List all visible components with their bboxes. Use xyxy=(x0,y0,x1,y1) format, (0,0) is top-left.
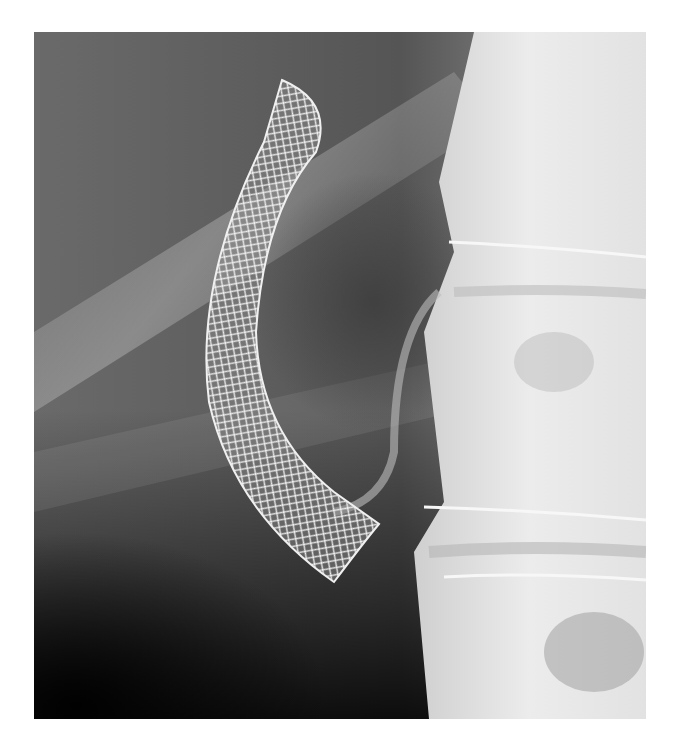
xray-image xyxy=(34,32,646,719)
xray-illustration xyxy=(34,32,646,719)
vertebra-shadow xyxy=(544,612,644,692)
vertebra-shadow xyxy=(514,332,594,392)
disc-space xyxy=(454,290,646,294)
disc-space xyxy=(429,548,646,552)
